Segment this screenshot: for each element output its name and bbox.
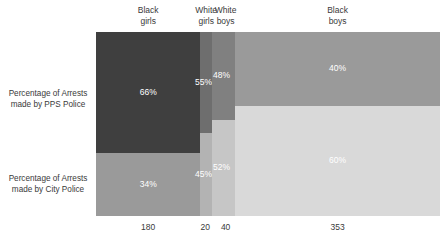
cell-pps-white-boys: 48%: [212, 32, 235, 120]
axis-total-black-girls: 180: [118, 222, 178, 232]
cell-value-city-black-girls: 34%: [96, 179, 200, 189]
cell-city-white-girls: 45%: [200, 133, 212, 216]
cell-city-white-boys: 52%: [212, 120, 235, 216]
cell-value-city-white-girls: 45%: [192, 169, 212, 179]
cell-value-pps-black-boys: 40%: [235, 63, 440, 73]
cell-value-pps-white-boys: 48%: [213, 70, 236, 80]
cell-pps-black-boys: 40%: [235, 32, 440, 106]
column-header-black-boys: Black boys: [308, 5, 368, 27]
mosaic-column-white-boys: 48%52%: [212, 32, 235, 216]
mosaic-chart: Black girls White girls White boys Black…: [0, 0, 448, 245]
cell-value-pps-white-girls: 55%: [192, 77, 212, 87]
plot-area: 66%34%55%45%48%52%40%60%: [96, 32, 440, 216]
cell-value-city-black-boys: 60%: [235, 155, 440, 165]
mosaic-column-black-boys: 40%60%: [235, 32, 440, 216]
cell-city-black-girls: 34%: [96, 153, 200, 216]
cell-city-black-boys: 60%: [235, 106, 440, 216]
mosaic-column-white-girls: 55%45%: [200, 32, 212, 216]
cell-pps-white-girls: 55%: [200, 32, 212, 133]
axis-total-white-boys: 40: [196, 222, 256, 232]
column-header-black-girls: Black girls: [118, 5, 178, 27]
row-label-city-police: Percentage of Arrests made by City Polic…: [2, 173, 94, 195]
row-label-pps-police: Percentage of Arrests made by PPS Police: [2, 88, 94, 110]
cell-pps-black-girls: 66%: [96, 32, 200, 153]
axis-total-black-boys: 353: [308, 222, 368, 232]
mosaic-column-black-girls: 66%34%: [96, 32, 200, 216]
column-header-white-boys: White boys: [196, 5, 256, 27]
cell-value-pps-black-girls: 66%: [96, 87, 200, 97]
cell-value-city-white-boys: 52%: [213, 162, 236, 172]
